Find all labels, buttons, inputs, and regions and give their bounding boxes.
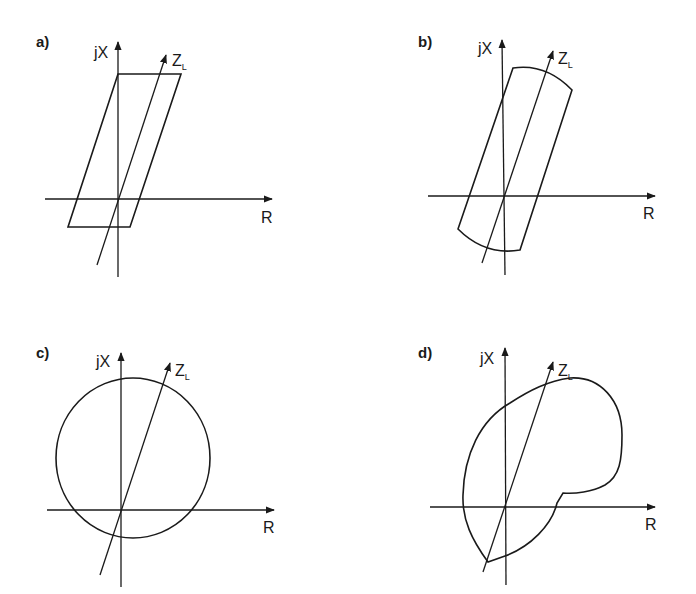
zl-label: ZL bbox=[175, 362, 190, 382]
r-axis-label: R bbox=[645, 516, 657, 533]
panel-c: c) jX R ZL bbox=[36, 344, 275, 587]
zl-label: ZL bbox=[558, 50, 573, 70]
jx-axis bbox=[502, 40, 505, 275]
panel-b: b) jX R ZL bbox=[418, 33, 655, 275]
panel-label: b) bbox=[418, 33, 432, 50]
panel-a: a) jX R ZL bbox=[36, 33, 273, 277]
circle-characteristic bbox=[56, 378, 210, 538]
r-axis-label: R bbox=[643, 205, 655, 222]
jx-axis-label: jX bbox=[479, 350, 495, 367]
panel-label: a) bbox=[36, 33, 49, 50]
panel-d: d) jX R ZL bbox=[418, 344, 657, 585]
jx-axis bbox=[505, 348, 506, 585]
zl-line bbox=[100, 363, 170, 575]
zl-label: ZL bbox=[172, 52, 187, 72]
zl-line bbox=[97, 55, 166, 265]
relay-characteristics-diagram: a) jX R ZL b) jX R ZL c) jX R ZL d) jX R bbox=[0, 0, 696, 594]
panel-label: d) bbox=[418, 344, 432, 361]
r-axis-label: R bbox=[263, 519, 275, 536]
zl-line bbox=[482, 51, 553, 263]
parallelogram-characteristic bbox=[68, 74, 181, 227]
panel-label: c) bbox=[36, 344, 49, 361]
jx-axis-label: jX bbox=[93, 44, 109, 61]
jx-axis-label: jX bbox=[95, 353, 111, 370]
r-axis-label: R bbox=[261, 209, 273, 226]
polar-characteristic bbox=[463, 378, 622, 562]
lens-characteristic bbox=[458, 67, 572, 251]
zl-line bbox=[483, 362, 553, 572]
jx-axis-label: jX bbox=[477, 40, 493, 57]
